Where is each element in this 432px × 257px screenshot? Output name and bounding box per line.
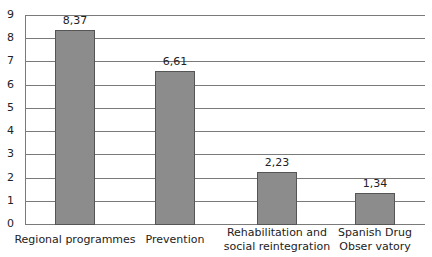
value-label: 2,23	[247, 157, 307, 169]
x-category-label: Rehabilitation and social reintegration	[222, 226, 332, 254]
y-tick-label: 6	[0, 79, 14, 91]
bar-regional-programmes	[55, 30, 95, 225]
y-tick-label: 7	[0, 55, 14, 67]
y-axis-line	[25, 15, 26, 224]
y-tick-label: 2	[0, 172, 14, 184]
x-category-label: Prevention	[130, 233, 220, 247]
y-tick-label: 9	[0, 9, 14, 21]
x-category-label: Spanish Drug Obser vatory	[335, 226, 415, 254]
bar-rehabilitation	[257, 172, 297, 225]
y-tick-label: 0	[0, 218, 14, 230]
value-label: 8,37	[45, 15, 105, 27]
y-tick-label: 8	[0, 32, 14, 44]
y-tick-label: 4	[0, 125, 14, 137]
bar-prevention	[155, 71, 195, 225]
bar-spanish-drug-observatory	[355, 193, 395, 225]
value-label: 6,61	[145, 56, 205, 68]
x-category-label: Regional programmes	[8, 233, 142, 247]
bar-chart: 0 1 2 3 4 5 6 7 8 9 8,37 6,61 2,23 1,34 …	[0, 0, 432, 257]
y-tick-label: 1	[0, 195, 14, 207]
value-label: 1,34	[345, 178, 405, 190]
y-tick-label: 3	[0, 148, 14, 160]
y-tick-label: 5	[0, 102, 14, 114]
